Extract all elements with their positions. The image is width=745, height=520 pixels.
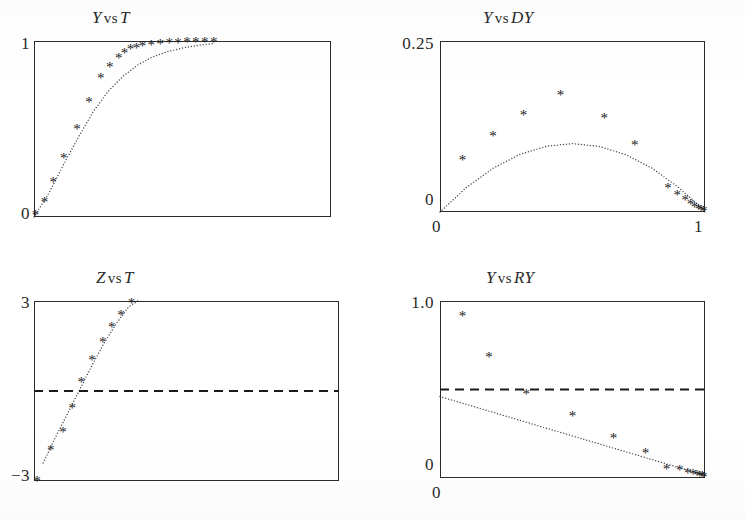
fit-dot [471, 405, 472, 406]
title-var1: Y [483, 8, 493, 27]
fit-dot [110, 88, 111, 89]
fit-dot [448, 203, 449, 204]
data-points-p4: ************** [459, 308, 708, 484]
fit-dot [503, 162, 504, 163]
title-vs: vs [106, 270, 124, 286]
fit-dot [444, 207, 445, 208]
fit-dot [531, 150, 532, 151]
panel-title-y-vs-ry: YvsRY [486, 268, 534, 288]
data-point-marker: * [78, 374, 86, 390]
fit-dot [506, 161, 507, 162]
fit-dot [539, 148, 540, 149]
data-point-marker: * [663, 461, 671, 477]
fit-dot [162, 53, 163, 54]
fit-dot [474, 406, 475, 407]
data-point-marker: * [117, 307, 125, 323]
fit-dot [536, 148, 537, 149]
fit-dot [516, 155, 517, 156]
fit-dot [592, 441, 593, 442]
fit-dot [523, 421, 524, 422]
fit-dot [123, 75, 124, 76]
data-point-marker: * [128, 295, 136, 311]
fit-dot [638, 160, 639, 161]
fit-dot [87, 374, 88, 375]
fit-dot [610, 149, 611, 150]
fit-dot [114, 84, 115, 85]
title-var1: Y [92, 8, 102, 27]
fit-dot [574, 436, 575, 437]
fit-dot [577, 437, 578, 438]
fit-dot [635, 454, 636, 455]
fit-dot [473, 181, 474, 182]
fit-dot [514, 418, 515, 419]
fit-dot [55, 435, 56, 436]
data-point-marker: * [148, 37, 156, 53]
fit-curve-p3 [42, 300, 138, 463]
data-point-marker: * [673, 187, 681, 203]
fit-dot [542, 147, 543, 148]
data-point-marker: * [676, 462, 684, 478]
fit-dot [546, 427, 547, 428]
y-tick-bottom-p2: 0 [388, 190, 434, 210]
fit-dot [488, 171, 489, 172]
fit-dot [492, 167, 493, 168]
fit-dot [648, 166, 649, 167]
fit-dot [651, 167, 652, 168]
fit-dot [640, 162, 641, 163]
fit-dot [517, 419, 518, 420]
y-tick-top-p4: 1.0 [392, 293, 434, 313]
fit-dot [44, 460, 45, 461]
title-var1: Y [486, 268, 496, 287]
fit-dot [554, 430, 555, 431]
fit-dot [108, 90, 109, 91]
plot-surface-p4: ************** [440, 301, 705, 478]
fit-dot [76, 395, 77, 396]
fit-dot [511, 158, 512, 159]
fit-dot [498, 165, 499, 166]
fit-dot [580, 438, 581, 439]
fit-dot [457, 195, 458, 196]
fit-dot [616, 151, 617, 152]
fit-dot [119, 79, 120, 80]
title-var2: DY [511, 8, 534, 27]
fit-dot [142, 61, 143, 62]
data-point-marker: * [201, 34, 209, 50]
fit-dot [99, 350, 100, 351]
fit-dot [526, 422, 527, 423]
data-point-marker: * [700, 203, 708, 219]
fit-dot [88, 120, 89, 121]
fit-dot [586, 439, 587, 440]
fit-dot [91, 114, 92, 115]
x-tick-right-p2: 1 [694, 217, 703, 237]
x-tick-left-p2: 0 [432, 217, 441, 237]
fit-dot [632, 453, 633, 454]
fit-dot [60, 169, 61, 170]
data-point-marker: * [60, 150, 67, 166]
fit-dot [145, 60, 146, 61]
title-vs: vs [496, 270, 514, 286]
fit-dot [94, 109, 95, 110]
fit-dot [599, 146, 600, 147]
fit-dot [595, 442, 596, 443]
fit-dot [500, 163, 501, 164]
fit-dot [452, 199, 453, 200]
fit-dot [572, 143, 573, 144]
fit-dot [503, 415, 504, 416]
fit-dot [540, 426, 541, 427]
fit-dot [566, 433, 567, 434]
fit-dot [121, 77, 122, 78]
fit-dot [96, 107, 97, 108]
fit-dot [635, 159, 636, 160]
fit-dot [101, 100, 102, 101]
fit-dot [661, 174, 662, 175]
fit-dot [463, 189, 464, 190]
fit-dot [497, 413, 498, 414]
fit-dot [104, 95, 105, 96]
plot-surface-p3: ********** [34, 301, 339, 481]
fit-dot [643, 163, 644, 164]
fit-dot [563, 144, 564, 145]
fit-dot [548, 145, 549, 146]
fit-dot [488, 410, 489, 411]
fit-dot [135, 66, 136, 67]
fit-dot [624, 154, 625, 155]
